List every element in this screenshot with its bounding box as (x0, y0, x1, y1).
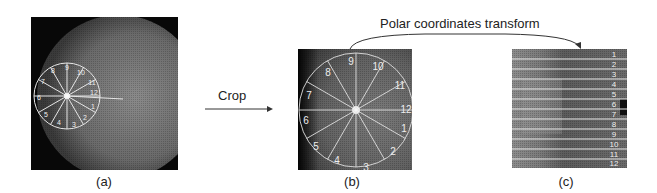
svg-text:1: 1 (612, 50, 617, 59)
panel-b-cropped-image: 1 2 3 4 5 6 7 8 9 10 11 12 (298, 49, 412, 170)
svg-text:6: 6 (612, 100, 617, 109)
polar-transform-label: Polar coordinates transform (380, 16, 540, 31)
svg-text:3: 3 (72, 121, 76, 128)
svg-text:9: 9 (65, 64, 69, 71)
svg-text:12: 12 (610, 159, 619, 168)
svg-text:9: 9 (612, 130, 617, 139)
svg-text:4: 4 (612, 80, 617, 89)
crop-label: Crop (218, 88, 246, 103)
svg-text:8: 8 (325, 67, 331, 78)
svg-text:10: 10 (372, 61, 384, 72)
svg-text:11: 11 (395, 80, 406, 91)
svg-text:12: 12 (90, 89, 98, 96)
svg-text:5: 5 (313, 141, 319, 152)
svg-text:8: 8 (612, 120, 617, 129)
svg-text:3: 3 (612, 70, 617, 79)
svg-text:2: 2 (83, 114, 87, 121)
svg-text:1: 1 (401, 123, 407, 134)
svg-text:7: 7 (306, 90, 312, 101)
caption-c: (c) (546, 174, 586, 189)
svg-text:11: 11 (88, 79, 95, 86)
svg-text:11: 11 (610, 150, 619, 159)
svg-text:4: 4 (57, 119, 61, 126)
cropped-image-b: 1 2 3 4 5 6 7 8 9 10 11 12 (298, 49, 412, 170)
svg-text:1: 1 (91, 103, 95, 110)
svg-text:4: 4 (334, 155, 340, 166)
svg-text:7: 7 (41, 78, 45, 85)
caption-b: (b) (332, 174, 372, 189)
svg-text:6: 6 (303, 115, 309, 126)
svg-text:6: 6 (37, 94, 41, 101)
svg-text:8: 8 (51, 67, 55, 74)
svg-text:2: 2 (612, 60, 617, 69)
panel-c-polar-strip: 1 2 3 4 5 6 7 8 9 10 11 12 (512, 49, 627, 168)
svg-text:9: 9 (348, 56, 354, 67)
polar-strip-c: 1 2 3 4 5 6 7 8 9 10 11 12 (512, 49, 627, 168)
svg-text:7: 7 (612, 110, 617, 119)
crop-arrow-icon (203, 104, 275, 114)
fundus-image-a: 1 2 3 4 5 6 7 8 9 10 11 12 (31, 17, 178, 170)
svg-text:2: 2 (390, 146, 396, 157)
svg-text:5: 5 (44, 111, 48, 118)
svg-text:12: 12 (400, 104, 412, 115)
svg-text:5: 5 (612, 90, 617, 99)
svg-text:10: 10 (77, 69, 85, 76)
svg-text:10: 10 (610, 140, 619, 149)
panel-a-fundus-image: 1 2 3 4 5 6 7 8 9 10 11 12 (31, 17, 178, 170)
svg-text:3: 3 (363, 162, 369, 170)
caption-a: (a) (84, 174, 124, 189)
